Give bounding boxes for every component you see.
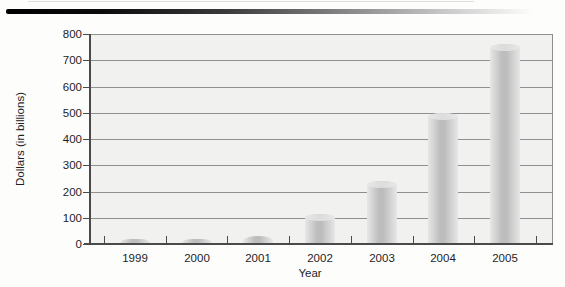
gradient-rule <box>6 9 554 14</box>
y-tick-800 <box>83 34 89 35</box>
bar-2003 <box>367 181 397 244</box>
x-tick-label-2004: 2004 <box>412 252 474 265</box>
bar-cap-2002 <box>305 214 335 221</box>
x-boundary-tick-6 <box>474 236 475 243</box>
y-tick-label-300: 300 <box>44 159 82 171</box>
x-boundary-tick-1 <box>166 236 167 243</box>
bar-cap-2003 <box>367 181 397 188</box>
y-tick-700 <box>83 60 89 61</box>
x-tick-label-2002: 2002 <box>289 252 351 265</box>
x-tick-label-2005: 2005 <box>474 252 536 265</box>
plot-area <box>90 34 553 244</box>
y-tick-0 <box>83 244 89 245</box>
y-tick-500 <box>83 113 89 114</box>
y-tick-label-700: 700 <box>44 54 82 66</box>
page-edge-line <box>28 1 474 2</box>
bar-cap-2005 <box>490 44 520 51</box>
x-tick-label-2003: 2003 <box>351 252 413 265</box>
bar-2005 <box>490 44 520 244</box>
y-tick-label-200: 200 <box>44 186 82 198</box>
x-axis-title: Year <box>90 267 530 279</box>
y-tick-400 <box>83 139 89 140</box>
y-tick-label-800: 800 <box>44 28 82 40</box>
x-boundary-tick-2 <box>227 236 228 243</box>
bar-cap-2004 <box>428 113 458 120</box>
figure: Dollars (in billions) 800700600500400300… <box>0 0 565 287</box>
x-axis-line <box>84 243 553 245</box>
y-tick-300 <box>83 165 89 166</box>
x-boundary-tick-7 <box>536 236 537 243</box>
gridline-200 <box>90 192 552 193</box>
y-tick-label-0: 0 <box>44 238 82 250</box>
y-tick-label-400: 400 <box>44 133 82 145</box>
y-tick-label-500: 500 <box>44 107 82 119</box>
gridline-500 <box>90 113 552 114</box>
x-tick-label-2000: 2000 <box>166 252 228 265</box>
y-tick-600 <box>83 87 89 88</box>
gridline-800 <box>90 34 552 35</box>
gridline-300 <box>90 165 552 166</box>
gridline-700 <box>90 60 552 61</box>
x-boundary-tick-5 <box>413 236 414 243</box>
x-tick-label-2001: 2001 <box>227 252 289 265</box>
bar-2002 <box>305 214 335 244</box>
x-tick-label-1999: 1999 <box>104 252 166 265</box>
y-axis-title: Dollars (in billions) <box>13 69 27 209</box>
bar-2004 <box>428 113 458 244</box>
x-boundary-tick-0 <box>104 236 105 243</box>
x-boundary-tick-3 <box>289 236 290 243</box>
x-boundary-tick-4 <box>351 236 352 243</box>
y-tick-label-100: 100 <box>44 212 82 224</box>
y-tick-200 <box>83 192 89 193</box>
gridline-600 <box>90 87 552 88</box>
gridline-400 <box>90 139 552 140</box>
y-axis-line <box>89 34 91 245</box>
y-tick-100 <box>83 218 89 219</box>
y-tick-label-600: 600 <box>44 81 82 93</box>
